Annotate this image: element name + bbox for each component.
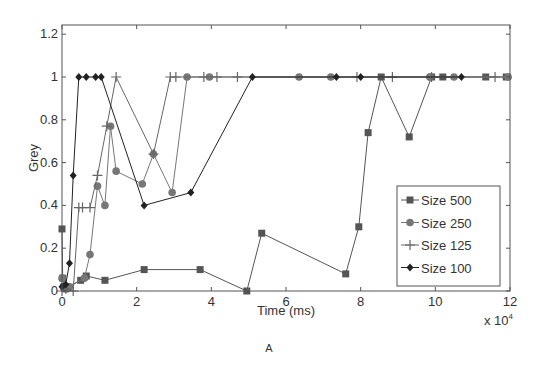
diamond-marker — [333, 73, 340, 81]
legend-label: Size 250 — [421, 216, 472, 231]
x-tick-label: 2 — [133, 294, 140, 309]
figure-caption: A — [265, 342, 273, 354]
diamond-marker — [75, 73, 82, 81]
x-multiplier-base: x 10 — [484, 313, 509, 328]
circle-marker — [168, 189, 176, 197]
plus-marker — [148, 149, 158, 159]
diamond-marker — [357, 73, 364, 81]
x-multiplier-exponent: 4 — [509, 312, 514, 321]
square-marker — [101, 277, 108, 284]
diamond-marker — [66, 259, 73, 267]
circle-marker — [406, 219, 414, 227]
x-axis-title: Time (ms) — [257, 303, 315, 318]
y-tick-label: 0.2 — [40, 240, 58, 255]
x-tick-label: 8 — [357, 294, 364, 309]
y-tick-label: 0.8 — [40, 112, 58, 127]
square-marker — [258, 230, 265, 237]
x-tick-label: 10 — [428, 294, 442, 309]
square-marker — [407, 197, 414, 204]
y-tick-label: 0.6 — [40, 155, 58, 170]
square-marker — [141, 266, 148, 273]
circle-marker — [138, 180, 146, 188]
legend-label: Size 125 — [421, 238, 472, 253]
x-tick-label: 0 — [58, 294, 65, 309]
circle-marker — [86, 251, 94, 259]
plus-marker — [85, 203, 95, 213]
y-tick-label: 1 — [51, 69, 58, 84]
plus-marker — [111, 72, 121, 82]
plus-marker — [490, 72, 500, 82]
x-tick-label: 4 — [208, 294, 215, 309]
square-marker — [406, 133, 413, 140]
plus-marker — [199, 72, 209, 82]
plus-marker — [212, 72, 222, 82]
legend: Size 500Size 250Size 125Size 100 — [397, 186, 500, 286]
diamond-marker — [83, 73, 90, 81]
x-multiplier-label: x 104 — [484, 312, 514, 328]
square-marker — [365, 129, 372, 136]
diamond-marker — [458, 73, 465, 81]
diamond-marker — [70, 171, 77, 179]
circle-marker — [101, 202, 109, 210]
square-marker — [355, 223, 362, 230]
y-tick-label: 0 — [51, 283, 58, 298]
square-marker — [342, 270, 349, 277]
legend-label: Size 100 — [421, 261, 472, 276]
diamond-marker — [249, 73, 256, 81]
y-axis-title: Grey — [26, 143, 41, 172]
x-tick-label: 12 — [503, 294, 517, 309]
diamond-marker — [141, 201, 148, 209]
circle-marker — [81, 274, 89, 282]
plus-marker — [171, 72, 181, 82]
diamond-marker — [187, 189, 194, 197]
plus-marker — [92, 170, 102, 180]
circle-marker — [112, 167, 120, 175]
diamond-marker — [98, 73, 105, 81]
square-marker — [197, 266, 204, 273]
legend-label: Size 500 — [421, 193, 472, 208]
line-chart: 024681012 00.20.40.60.811.2 Time (ms) Gr… — [0, 0, 545, 378]
plus-marker — [232, 72, 242, 82]
y-tick-label: 0.4 — [40, 197, 58, 212]
y-tick-label: 1.2 — [40, 26, 58, 41]
